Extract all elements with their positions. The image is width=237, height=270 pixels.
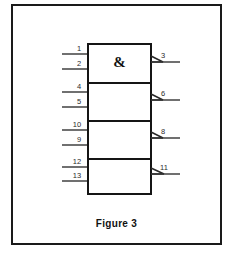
- pin-label-3: 3: [161, 51, 165, 60]
- gate-1: & 1 2 3: [62, 44, 180, 83]
- pin-label-13: 13: [73, 171, 81, 180]
- figure-caption: Figure 3: [11, 218, 222, 229]
- gate-3-body: [88, 121, 151, 159]
- gate-4: 12 13 11: [62, 157, 180, 194]
- pin-label-9: 9: [77, 135, 81, 144]
- pin-label-12: 12: [73, 157, 81, 166]
- gate-2: 4 5 6: [62, 82, 180, 121]
- pin-label-1: 1: [77, 44, 81, 53]
- gate-3: 10 9 8: [62, 120, 180, 159]
- gate-2-body: [88, 83, 151, 121]
- pin-label-8: 8: [161, 127, 165, 136]
- pin-label-4: 4: [77, 82, 81, 91]
- pin-label-6: 6: [161, 89, 165, 98]
- logic-gate-schematic: & 1 2 3 4 5 6 10 9 8: [0, 0, 237, 270]
- figure-page: & 1 2 3 4 5 6 10 9 8: [0, 0, 237, 270]
- pin-label-11: 11: [160, 163, 168, 172]
- gate-4-body: [88, 159, 151, 194]
- pin-label-10: 10: [73, 120, 81, 129]
- and-symbol: &: [113, 54, 126, 70]
- pin-label-5: 5: [77, 97, 81, 106]
- pin-label-2: 2: [77, 59, 81, 68]
